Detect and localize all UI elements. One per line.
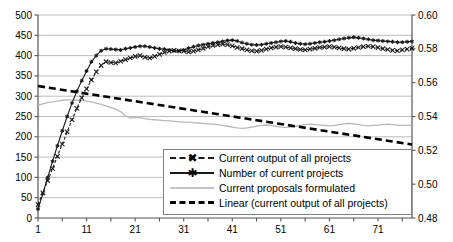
chart-container: 050100150200250300350400450500 0.480.500…: [0, 0, 453, 242]
svg-text:450: 450: [15, 30, 32, 41]
svg-text:250: 250: [15, 111, 32, 122]
legend-item-current-output: ✖ Current output of all projects: [164, 150, 411, 165]
svg-text:500: 500: [15, 10, 32, 21]
svg-text:0.58: 0.58: [418, 43, 438, 54]
svg-text:400: 400: [15, 50, 32, 61]
legend-label-proposals-formulated: Current proposals formulated: [219, 182, 355, 194]
svg-text:51: 51: [275, 224, 287, 235]
legend-key-solid-gray-icon: [170, 182, 214, 194]
svg-text:41: 41: [227, 224, 239, 235]
x-marker-icon: ✖: [187, 153, 198, 164]
y2-axis-tick-labels: 0.480.500.520.540.560.580.60: [418, 10, 438, 224]
svg-text:150: 150: [15, 152, 32, 163]
legend-item-proposals-formulated: Current proposals formulated: [164, 180, 411, 195]
legend-key-dashed-x-icon: ✖: [170, 152, 214, 164]
legend-key-dashed-thick-icon: [170, 197, 214, 209]
svg-text:0.56: 0.56: [418, 77, 438, 88]
chart-legend: ✖ Current output of all projects ✱ Numbe…: [163, 149, 412, 215]
svg-text:100: 100: [15, 172, 32, 183]
x-axis-tick-labels: 111213141516171: [35, 224, 384, 235]
svg-text:0.50: 0.50: [418, 179, 438, 190]
svg-text:300: 300: [15, 91, 32, 102]
svg-text:11: 11: [81, 224, 92, 235]
svg-text:50: 50: [21, 192, 33, 203]
legend-item-linear-trend: Linear (current output of all projects): [164, 195, 411, 210]
asterisk-marker-icon: ✱: [187, 168, 198, 179]
svg-text:31: 31: [178, 224, 190, 235]
svg-text:0.52: 0.52: [418, 145, 438, 156]
legend-label-linear-trend: Linear (current output of all projects): [219, 197, 388, 209]
svg-text:21: 21: [130, 224, 142, 235]
svg-text:350: 350: [15, 70, 32, 81]
svg-text:0.48: 0.48: [418, 213, 438, 224]
legend-item-number-of-projects: ✱ Number of current projects: [164, 165, 411, 180]
legend-key-solid-asterisk-icon: ✱: [170, 167, 214, 179]
svg-text:0.60: 0.60: [418, 10, 438, 21]
svg-text:1: 1: [35, 224, 41, 235]
svg-text:61: 61: [324, 224, 336, 235]
y-axis-tick-labels: 050100150200250300350400450500: [15, 10, 32, 224]
svg-text:0.54: 0.54: [418, 111, 438, 122]
svg-text:200: 200: [15, 131, 32, 142]
svg-text:71: 71: [372, 224, 384, 235]
svg-text:0: 0: [26, 213, 32, 224]
series-linear-trend: [38, 86, 412, 144]
legend-label-current-output: Current output of all projects: [219, 152, 351, 164]
legend-label-number-of-projects: Number of current projects: [219, 167, 343, 179]
